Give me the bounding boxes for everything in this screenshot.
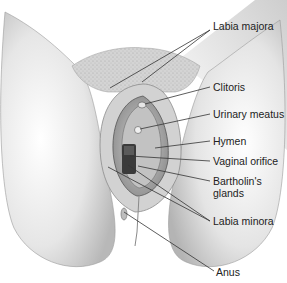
left-thigh [1,12,115,267]
label-bartholins-glands-line2: glands [213,187,244,199]
urinary-meatus-shape [135,127,142,134]
label-clitoris: Clitoris [213,81,245,93]
label-vaginal-orifice: Vaginal orifice [213,155,278,167]
label-hymen: Hymen [213,135,246,147]
anus-shape [121,208,127,220]
label-labia-minora: Labia minora [213,215,274,227]
label-urinary-meatus: Urinary meatus [213,108,284,120]
label-labia-majora: Labia majora [213,20,274,32]
label-bartholins-glands: Bartholin's [213,175,262,187]
clitoris-shape [138,102,146,108]
label-anus: Anus [216,266,240,278]
